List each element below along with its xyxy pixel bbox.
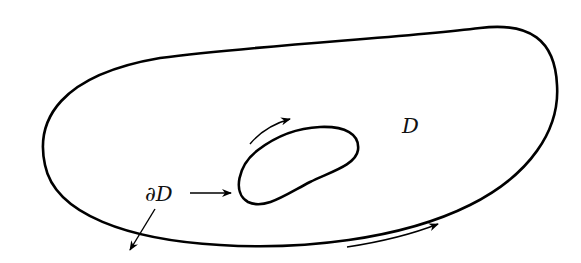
boundary-pointer-arrow-outer — [130, 209, 155, 250]
outer-orientation-arrow — [347, 224, 438, 247]
boundary-label: ∂D — [145, 182, 173, 206]
region-label: D — [401, 114, 419, 138]
outer-boundary-curve — [43, 27, 557, 246]
domain-diagram: D ∂D — [0, 0, 581, 263]
inner-boundary-curve — [239, 127, 358, 204]
inner-orientation-arrow — [250, 119, 290, 144]
